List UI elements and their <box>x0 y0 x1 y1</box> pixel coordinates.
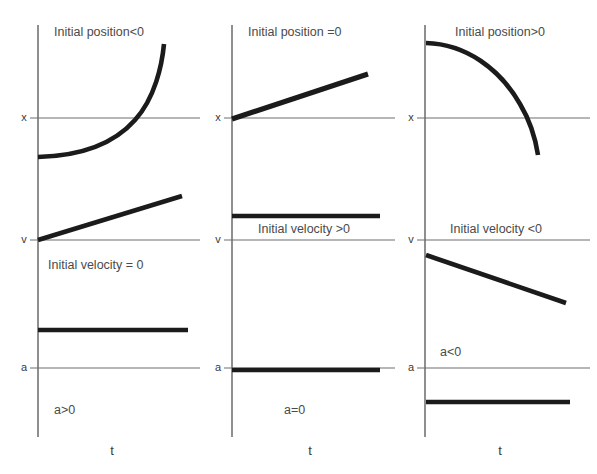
panel-2-acceleration-note: a=0 <box>284 403 305 417</box>
panel-2: x v a Initial position =0 Initial veloci… <box>215 25 395 458</box>
panel-3-acceleration-axis-tag: a <box>408 361 415 373</box>
figure-canvas: x v a Initial position<0 Initial velocit… <box>0 0 597 474</box>
panel-2-position-axis-tag: x <box>215 111 221 123</box>
panel-3-title: Initial position>0 <box>455 25 545 39</box>
panel-3: x v a Initial position>0 Initial velocit… <box>408 25 590 458</box>
panel-2-acceleration-axis-tag: a <box>215 361 222 373</box>
panel-1-velocity-axis-tag: v <box>21 233 27 245</box>
panel-1-velocity-line <box>38 196 182 240</box>
panel-3-position-curve <box>426 43 538 155</box>
panel-1: x v a Initial position<0 Initial velocit… <box>21 25 200 458</box>
panel-1-position-curve <box>38 44 164 157</box>
panel-1-acceleration-note: a>0 <box>54 403 75 417</box>
panel-1-position-axis-tag: x <box>21 111 27 123</box>
panel-3-velocity-axis-tag: v <box>408 233 414 245</box>
panel-3-position-axis-tag: x <box>408 111 414 123</box>
panel-2-time-label: t <box>308 443 312 458</box>
panel-3-velocity-line <box>426 255 566 303</box>
panel-2-position-line <box>232 74 368 119</box>
panel-2-velocity-note: Initial velocity >0 <box>258 222 350 236</box>
panel-1-title: Initial position<0 <box>54 25 144 39</box>
panel-3-velocity-note: Initial velocity <0 <box>450 222 542 236</box>
panel-3-acceleration-note: a<0 <box>440 345 461 359</box>
panel-1-time-label: t <box>110 443 114 458</box>
panel-1-velocity-note: Initial velocity = 0 <box>48 258 144 272</box>
panel-2-velocity-axis-tag: v <box>215 233 221 245</box>
panel-2-title: Initial position =0 <box>248 25 342 39</box>
panel-1-acceleration-axis-tag: a <box>21 361 28 373</box>
kinematics-figure: x v a Initial position<0 Initial velocit… <box>0 0 597 474</box>
panel-3-time-label: t <box>498 443 502 458</box>
